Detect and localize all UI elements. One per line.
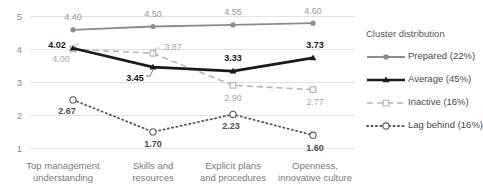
label-leader-lines [73,44,160,76]
series-prepared [70,21,315,33]
series-layer [30,8,355,156]
data-label-lag-0: 2.67 [58,106,76,116]
legend-label-inactive: Inactive (16%) [408,96,469,107]
y-tick-1: 1 [0,143,22,154]
legend-label-lag-behind: Lag behind (16%) [408,119,483,130]
x-tick-3: Openness, innovative culture [262,160,368,183]
plot-area: 4.40 4.50 4.55 4.60 4.02 3.45 3.33 3.73 … [30,8,355,156]
data-label-prepared-1: 4.50 [144,9,162,19]
legend-item-lag-behind[interactable]: Lag behind (16%) [366,118,470,130]
legend-key-average-icon [366,72,406,84]
legend-label-prepared: Prepared (22%) [408,50,475,61]
legend-item-inactive[interactable]: Inactive (16%) [366,95,470,107]
data-label-average-0: 4.02 [48,40,66,50]
legend-item-prepared[interactable]: Prepared (22%) [366,49,470,61]
data-label-average-1: 3.45 [126,73,144,83]
data-label-inactive-2: 2.90 [224,93,242,103]
data-label-inactive-0: 4.00 [52,54,70,64]
y-tick-4: 4 [0,44,22,55]
data-label-average-2: 3.33 [224,53,242,63]
legend-key-prepared-icon [366,49,406,61]
x-tick-0-line-2: understanding [13,172,113,184]
x-tick-3-line-2: innovative culture [262,172,368,184]
legend-title: Cluster distribution [366,28,470,39]
x-tick-0-line-1: Top management [13,160,113,172]
legend-key-inactive-icon [366,95,406,107]
legend-item-average[interactable]: Average (45%) [366,72,470,84]
legend-label-average: Average (45%) [408,73,471,84]
legend: Cluster distribution Prepared (22%) Aver… [366,28,470,141]
data-label-lag-2: 2.23 [222,121,240,131]
y-tick-2: 2 [0,110,22,121]
series-average [70,45,317,74]
series-lag-behind [70,97,316,139]
y-tick-5: 5 [0,11,22,22]
data-label-prepared-3: 4.60 [304,6,322,16]
data-label-inactive-3: 2.77 [306,97,324,107]
x-tick-0: Top management understanding [13,160,113,183]
data-label-lag-3: 1.60 [306,143,324,153]
data-label-average-3: 3.73 [306,40,324,50]
data-label-prepared-2: 4.55 [224,7,242,17]
data-label-lag-1: 1.70 [144,139,162,149]
x-tick-3-line-1: Openness, [262,160,368,172]
data-label-inactive-1: 3.87 [164,42,182,52]
data-label-prepared-0: 4.40 [64,12,82,22]
legend-key-lag-behind-icon [366,118,406,130]
y-tick-3: 3 [0,77,22,88]
